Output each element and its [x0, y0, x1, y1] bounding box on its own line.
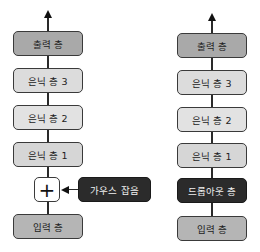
hidden-layer-2-box: 은닉 층 2 [177, 107, 247, 132]
plus-icon: + [39, 178, 56, 202]
gaussian-noise-label: 가우스 잡음 [90, 183, 138, 197]
gaussian-noise-box: 가우스 잡음 [78, 177, 151, 202]
dropout-layer-box: 드롭아웃 층 [177, 178, 247, 203]
dropout-layer-label: 드롭아웃 층 [188, 184, 236, 198]
hidden-layer-3-box: 은닉 층 3 [177, 70, 247, 95]
noise-connector-line [68, 189, 78, 191]
hidden-layer-3-label: 은닉 층 3 [192, 76, 231, 90]
hidden-layer-1-label: 은닉 층 1 [192, 149, 231, 163]
arrow-left-icon [61, 186, 69, 194]
add-node: + [34, 177, 60, 202]
hidden-layer-3-box: 은닉 층 3 [13, 68, 83, 93]
output-layer-box: 출력 층 [13, 31, 83, 56]
hidden-layer-1-label: 은닉 층 1 [28, 148, 67, 162]
hidden-layer-3-label: 은닉 층 3 [28, 74, 67, 88]
input-layer-box: 입력 층 [13, 214, 83, 239]
hidden-layer-2-box: 은닉 층 2 [13, 105, 83, 130]
output-layer-box: 출력 층 [177, 33, 247, 58]
input-layer-label: 입력 층 [33, 220, 63, 234]
output-layer-label: 출력 층 [197, 39, 227, 53]
hidden-layer-1-box: 은닉 층 1 [177, 143, 247, 168]
output-layer-label: 출력 층 [33, 37, 63, 51]
arrow-up-icon [208, 13, 216, 21]
hidden-layer-2-label: 은닉 층 2 [192, 113, 231, 127]
hidden-layer-1-box: 은닉 층 1 [13, 142, 83, 167]
input-layer-box: 입력 층 [177, 216, 247, 241]
arrow-up-icon [44, 10, 52, 18]
input-layer-label: 입력 층 [197, 222, 227, 236]
hidden-layer-2-label: 은닉 층 2 [28, 111, 67, 125]
